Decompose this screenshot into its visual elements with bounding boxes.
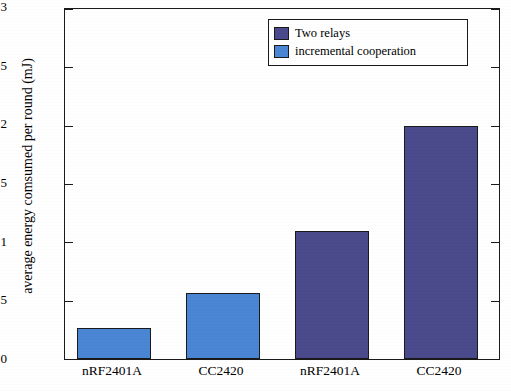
y-axis-title: average energy comsumed per round (mJ) xyxy=(20,0,36,356)
legend-swatch-icon xyxy=(274,45,289,58)
x-tick-label-2: nRF2401A xyxy=(270,364,390,378)
legend-label: Two relays xyxy=(295,26,350,41)
x-tick-label-1: CC2420 xyxy=(161,364,281,378)
y-tick-label-4: 2 xyxy=(0,117,7,130)
y-tick-label-2: 1 xyxy=(0,235,7,248)
legend-swatch-icon xyxy=(274,27,289,40)
bar-nrf2401a-two-relays xyxy=(295,231,369,359)
legend-item-two-relays: Two relays xyxy=(274,24,462,42)
y-tick-label-6: 3 xyxy=(0,0,7,13)
y-tick-mark xyxy=(491,359,499,360)
bar-cc2420-incremental xyxy=(186,293,260,360)
y-tick-label-1: 0.5 xyxy=(0,293,7,306)
bar-nrf2401a-incremental xyxy=(77,328,151,360)
legend-item-incremental-cooperation: incremental cooperation xyxy=(274,42,462,60)
x-tick-label-3: CC2420 xyxy=(379,364,499,378)
y-tick-mark xyxy=(65,359,73,360)
y-tick-label-3: 1.5 xyxy=(0,176,7,189)
x-tick-label-0: nRF2401A xyxy=(52,364,172,378)
y-tick-label-0: 0 xyxy=(0,352,7,365)
bar-chart: average energy comsumed per round (mJ) 0… xyxy=(0,0,511,391)
legend-label: incremental cooperation xyxy=(295,44,416,59)
legend: Two relays incremental cooperation xyxy=(268,19,468,66)
y-tick-label-5: 2.5 xyxy=(0,59,7,72)
plot-area: Two relays incremental cooperation xyxy=(64,8,500,360)
bar-cc2420-two-relays xyxy=(404,126,478,359)
